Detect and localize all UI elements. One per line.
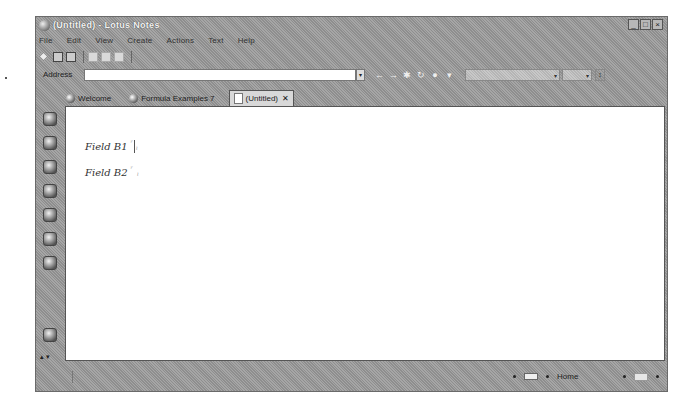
status-separator-dot	[546, 375, 549, 378]
toolbar	[36, 48, 667, 65]
search-input[interactable]: ▾	[562, 69, 592, 81]
stop-icon[interactable]: ✱	[403, 71, 411, 79]
copy-icon[interactable]	[101, 52, 111, 62]
field-close-marker: ˡ	[136, 146, 138, 154]
status-bar: Home	[36, 363, 667, 391]
window-title: (Untitled) - Lotus Notes	[53, 20, 160, 30]
field-open-marker: ʳ	[131, 139, 133, 147]
back-icon[interactable]: ←	[375, 71, 383, 79]
workspace-icon[interactable]	[43, 256, 57, 270]
field-b1-label: Field B1	[85, 141, 128, 152]
menu-help[interactable]: Help	[238, 36, 255, 45]
bookmark-sidebar: ▴ ▾	[36, 106, 65, 361]
address-input[interactable]	[84, 69, 356, 81]
status-separator-dot	[656, 375, 659, 378]
print-icon[interactable]	[66, 52, 76, 62]
address-dropdown-button[interactable]: ▾	[356, 69, 365, 81]
save-icon[interactable]	[53, 52, 63, 62]
maximize-button[interactable]: □	[640, 19, 651, 30]
field-b2-label: Field B2	[85, 167, 128, 178]
search-scope-dropdown[interactable]: ▾	[465, 69, 560, 81]
lotus-notes-window: (Untitled) - Lotus Notes _ □ × File Edit…	[35, 16, 668, 392]
close-tab-icon[interactable]: ✕	[282, 94, 289, 103]
menu-file[interactable]: File	[39, 36, 53, 45]
nav-more-dropdown-icon[interactable]: ▾	[445, 71, 453, 79]
bookmark-icon[interactable]	[39, 52, 49, 62]
menu-create[interactable]: Create	[127, 36, 152, 45]
mail-icon[interactable]	[43, 112, 57, 126]
document-icon	[234, 93, 243, 104]
address-bar: Address ▾ ← → ✱ ↻ ● ▾ ▾ ▾ ↕	[36, 67, 667, 82]
replicator-icon[interactable]	[43, 208, 57, 222]
network-activity-icon[interactable]	[524, 373, 538, 380]
tab-label: (Untitled)	[246, 94, 278, 103]
navigation-buttons: ← → ✱ ↻ ● ▾	[375, 71, 453, 79]
database-icon	[129, 94, 138, 103]
menu-actions[interactable]: Actions	[167, 36, 195, 45]
status-message-area	[44, 371, 73, 383]
field-open-marker: ʳ	[131, 165, 133, 173]
sametime-icon[interactable]	[43, 232, 57, 246]
database-icon[interactable]	[43, 328, 57, 342]
todo-icon[interactable]	[43, 184, 57, 198]
home-icon[interactable]: ●	[431, 71, 439, 79]
status-separator-dot	[623, 375, 626, 378]
field-b1-row: Field B1 ʳ ˡ	[85, 140, 138, 153]
cut-icon[interactable]	[88, 52, 98, 62]
paste-icon[interactable]	[114, 52, 124, 62]
tab-label: Formula Examples 7	[141, 94, 214, 103]
refresh-icon[interactable]: ↻	[417, 71, 425, 79]
field-b2-row: Field B2 ʳ ˡ	[85, 167, 139, 178]
minimize-button[interactable]: _	[628, 19, 639, 30]
menu-view[interactable]: View	[95, 36, 113, 45]
calendar-icon[interactable]	[43, 136, 57, 150]
chevron-down-icon: ▾	[554, 72, 557, 79]
document-canvas[interactable]: Field B1 ʳ ˡ Field B2 ʳ ˡ	[65, 106, 665, 361]
status-separator-dot	[513, 375, 516, 378]
menu-bar: File Edit View Create Actions Text Help	[36, 34, 667, 47]
tab-bar: Welcome Formula Examples 7 (Untitled) ✕	[36, 87, 667, 106]
sidebar-scroll-arrows[interactable]: ▴ ▾	[40, 353, 50, 361]
status-right-area: Home	[513, 372, 659, 381]
tab-untitled[interactable]: (Untitled) ✕	[229, 90, 294, 106]
menu-edit[interactable]: Edit	[67, 36, 82, 45]
mail-status-icon[interactable]	[634, 373, 648, 381]
field-close-marker: ˡ	[137, 172, 139, 180]
stray-dot	[5, 77, 7, 79]
title-bar: (Untitled) - Lotus Notes _ □ ×	[36, 17, 667, 33]
globe-icon	[66, 94, 75, 103]
text-cursor	[134, 140, 135, 153]
forward-icon[interactable]: →	[389, 71, 397, 79]
search-button[interactable]: ↕	[595, 69, 605, 81]
tab-welcome[interactable]: Welcome	[62, 90, 115, 106]
location-selector[interactable]: Home	[557, 372, 615, 381]
menu-text[interactable]: Text	[208, 36, 223, 45]
toolbar-separator	[131, 51, 132, 63]
address-book-icon[interactable]	[43, 160, 57, 174]
lotus-notes-app-icon	[39, 20, 50, 31]
tab-formula-examples[interactable]: Formula Examples 7	[125, 90, 218, 106]
close-button[interactable]: ×	[652, 19, 663, 30]
tab-label: Welcome	[78, 94, 111, 103]
window-controls: _ □ ×	[628, 19, 663, 30]
toolbar-separator	[83, 51, 84, 63]
chevron-down-icon: ▾	[586, 72, 589, 79]
address-label: Address	[43, 70, 84, 79]
